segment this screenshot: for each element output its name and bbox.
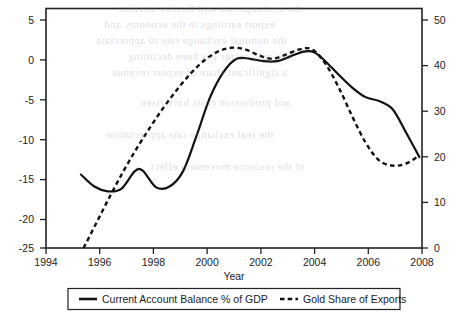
series-current-account-balance xyxy=(81,51,419,191)
right-axis-ticks xyxy=(422,20,428,248)
x-tick-label-1998: 1998 xyxy=(142,256,166,268)
left-tick-label-0: 0 xyxy=(28,54,34,66)
left-tick-label--15: -15 xyxy=(19,173,34,185)
left-axis: 5 0 -5 -10 -15 -20 -25 xyxy=(19,14,46,254)
x-tick-label-2006: 2006 xyxy=(357,256,381,268)
x-tick-label-2002: 2002 xyxy=(249,256,273,268)
right-tick-label-50: 50 xyxy=(434,14,446,26)
x-tick-label-1996: 1996 xyxy=(88,256,112,268)
left-tick-label--5: -5 xyxy=(25,94,34,106)
x-tick-label-1994: 1994 xyxy=(34,256,58,268)
left-tick-label--25: -25 xyxy=(19,242,34,254)
left-tick-label--10: -10 xyxy=(19,134,34,146)
right-axis: 50 40 30 20 10 0 xyxy=(422,14,446,254)
x-tick-label-2008: 2008 xyxy=(410,256,434,268)
gold-share-current-account-chart: the exchange rate and thereby sterilise … xyxy=(0,0,467,317)
right-tick-label-40: 40 xyxy=(434,59,446,71)
x-axis-title: Year xyxy=(223,270,245,282)
x-tick-label-2004: 2004 xyxy=(303,256,327,268)
left-tick-label-5: 5 xyxy=(28,14,34,26)
legend-label-current-account: Current Account Balance % of GDP xyxy=(102,293,268,305)
x-tick-label-2000: 2000 xyxy=(195,256,219,268)
right-tick-label-20: 20 xyxy=(434,151,446,163)
right-tick-label-30: 30 xyxy=(434,105,446,117)
right-tick-label-0: 0 xyxy=(434,242,440,254)
chart-legend: Current Account Balance % of GDP Gold Sh… xyxy=(68,289,406,310)
chart-canvas: 5 0 -5 -10 -15 -20 -25 50 40 30 20 10 0 xyxy=(0,0,467,317)
right-tick-label-10: 10 xyxy=(434,196,446,208)
left-tick-label--20: -20 xyxy=(19,213,34,225)
left-axis-ticks xyxy=(40,20,46,248)
series-gold-share-of-exports xyxy=(84,48,420,248)
x-axis-ticks xyxy=(46,248,422,254)
x-axis: 1994 1996 1998 2000 2002 2004 2006 2008 xyxy=(34,248,434,268)
legend-label-gold-share: Gold Share of Exports xyxy=(303,293,406,305)
